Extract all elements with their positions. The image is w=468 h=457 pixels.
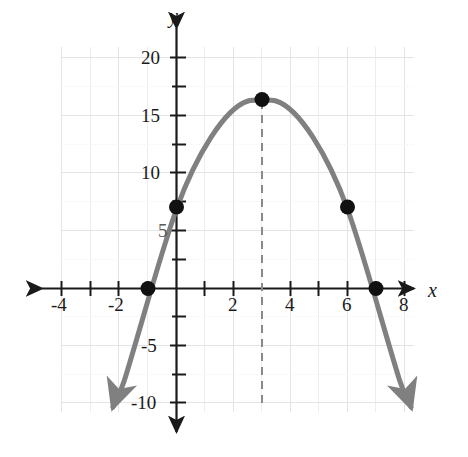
y-tick-label-15: 15: [141, 106, 160, 125]
curve-arrow-left: [113, 392, 118, 407]
y-tick-label--10: -10: [131, 393, 156, 412]
point-y-intercept: [169, 200, 184, 215]
y-tick-label-5: 5: [158, 221, 168, 240]
x-tick-label-2: 2: [228, 295, 238, 314]
x-axis-label: x: [428, 280, 437, 300]
x-tick-label-6: 6: [342, 295, 352, 314]
point-x-intercept-right: [369, 281, 384, 296]
x-tick-label-8: 8: [399, 295, 409, 314]
y-axis: [170, 28, 186, 432]
point-symmetric: [340, 200, 355, 215]
point-vertex: [255, 92, 270, 107]
y-axis-label: y: [169, 6, 178, 26]
y-tick-label-10: 10: [141, 163, 160, 182]
x-tick-label--2: -2: [108, 295, 124, 314]
point-x-intercept-left: [141, 281, 156, 296]
curve-arrow-right: [406, 392, 411, 407]
y-tick-label--5: -5: [141, 336, 157, 355]
parabola-plot: [0, 0, 468, 457]
y-tick-label-20: 20: [141, 48, 160, 67]
x-tick-label--4: -4: [51, 295, 67, 314]
x-tick-label-4: 4: [285, 295, 295, 314]
grid-lines: [61, 47, 414, 412]
graph-figure: -4 -2 2 4 6 8 20 15 10 5 -5 -10 x y: [0, 0, 468, 457]
y-axis-ticks: [170, 58, 186, 403]
